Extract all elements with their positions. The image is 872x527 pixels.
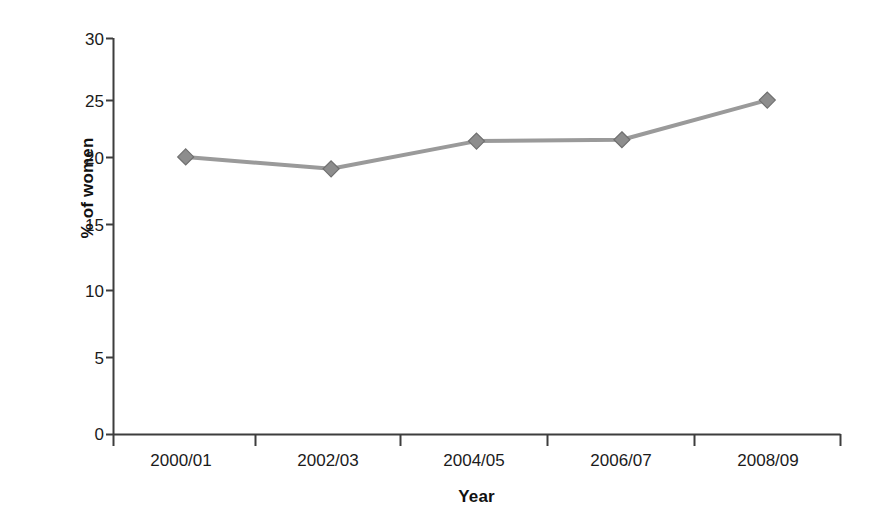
x-tick-label: 2000/01 <box>121 452 241 469</box>
line-chart: % of women 30 25 20 15 10 5 0 <box>0 0 872 527</box>
x-tick-label: 2006/07 <box>561 452 681 469</box>
x-axis-title: Year <box>113 487 840 507</box>
data-point-marker <box>469 133 485 149</box>
plot-area <box>0 0 872 527</box>
data-point-marker <box>178 149 194 165</box>
x-tick-label: 2002/03 <box>268 452 388 469</box>
x-tick-label: 2008/09 <box>708 452 828 469</box>
y-axis-ticks <box>106 39 113 435</box>
data-point-marker <box>614 132 630 148</box>
data-point-marker <box>759 92 775 108</box>
x-axis-ticks <box>114 434 841 446</box>
x-tick-label: 2004/05 <box>414 452 534 469</box>
data-point-marker <box>323 161 339 177</box>
